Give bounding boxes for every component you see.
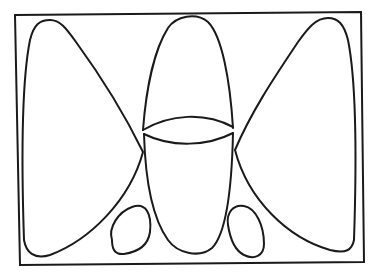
- center-lens-top: [143, 117, 233, 130]
- center-lens-bottom: [144, 133, 233, 144]
- frame-border: [15, 12, 364, 265]
- figure-svg: [0, 0, 380, 273]
- center-upper-lobe-shape: [143, 16, 233, 130]
- center-lower-lobe-shape: [144, 133, 233, 254]
- line-drawing-figure: [0, 0, 380, 273]
- left-small-blob-shape: [111, 206, 150, 254]
- right-wing-shape: [235, 18, 356, 252]
- left-wing-shape: [22, 20, 143, 257]
- right-small-blob-shape: [228, 206, 264, 257]
